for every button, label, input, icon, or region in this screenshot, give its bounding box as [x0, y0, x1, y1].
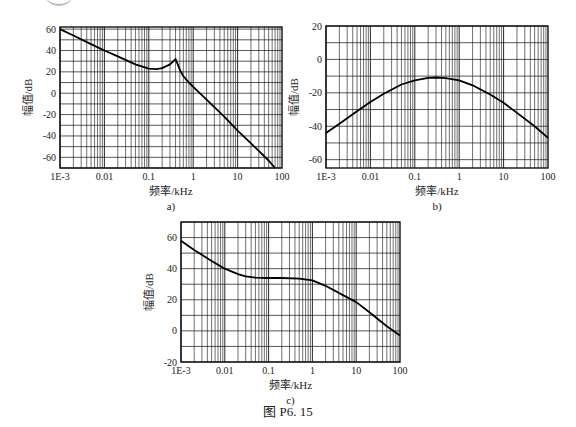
y-tick-label: 20: [167, 294, 177, 305]
y-axis-title: 幅值/dB: [143, 273, 155, 311]
y-tick-label: 60: [167, 232, 177, 243]
y-tick-label: -20: [164, 357, 177, 368]
chart-svg: 1E-30.010.11101006040200-20频率/kHz幅值/dBc): [0, 0, 576, 427]
x-tick-label: 10: [351, 365, 361, 376]
bode-magnitude-chart-c: 1E-30.010.11101006040200-20频率/kHz幅值/dBc): [0, 0, 576, 427]
x-tick-label: 1: [310, 365, 315, 376]
x-tick-label: 0.01: [216, 365, 234, 376]
x-tick-label: 0.1: [262, 365, 275, 376]
plot-frame: [181, 222, 400, 362]
y-tick-label: 0: [172, 325, 177, 336]
grid: [181, 222, 400, 362]
figure-caption: 图 P6. 15: [0, 401, 576, 420]
magnitude-curve: [181, 241, 400, 336]
y-tick-label: 40: [167, 263, 177, 274]
x-axis-title: 频率/kHz: [269, 378, 313, 391]
x-tick-label: 100: [393, 365, 408, 376]
